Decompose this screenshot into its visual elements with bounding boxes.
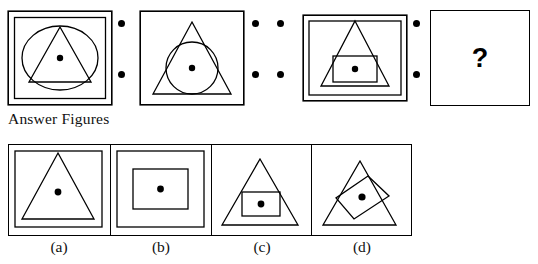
center-dot: [57, 55, 63, 61]
triangle: [153, 22, 231, 94]
problem-figure-1[interactable]: [7, 10, 113, 106]
question-mark: ?: [431, 11, 529, 105]
center-dot: [352, 66, 358, 72]
separator-dot: [118, 71, 125, 78]
answer-label-a: (a): [8, 238, 110, 256]
separator-dot: [252, 20, 259, 27]
separator-2-column-right: [277, 20, 284, 78]
center-dot: [358, 193, 365, 200]
separator-1: [118, 20, 127, 78]
problem-figure-3-graphic: [302, 14, 408, 102]
answer-option-d-graphic: [312, 145, 409, 234]
answer-figures-row: [8, 144, 412, 236]
center-dot: [157, 186, 164, 193]
triangle: [22, 153, 94, 219]
separator-1-column: [118, 20, 125, 78]
answer-option-b[interactable]: [111, 145, 213, 235]
outer-square: [140, 11, 244, 105]
separator-2: [252, 20, 284, 78]
answer-label-d: (d): [312, 238, 412, 256]
puzzle-stage: ? Answer Figures: [0, 0, 538, 264]
answer-option-c[interactable]: [212, 145, 312, 235]
problem-figure-1-graphic: [7, 10, 113, 106]
answer-label-c: (c): [212, 238, 312, 256]
answer-option-d[interactable]: [312, 145, 412, 235]
triangle: [321, 21, 389, 86]
separator-3-column: [413, 20, 420, 78]
outer-square: [303, 15, 407, 101]
center-dot: [189, 65, 195, 71]
center-dot: [55, 189, 62, 196]
problem-figure-3[interactable]: [302, 14, 408, 102]
answer-option-b-graphic: [111, 145, 210, 234]
problem-figure-4-unknown[interactable]: ?: [430, 10, 530, 106]
answer-label-b: (b): [110, 238, 212, 256]
center-dot: [258, 201, 265, 208]
problem-figure-2-graphic: [139, 10, 245, 106]
problem-figure-2[interactable]: [139, 10, 245, 106]
answer-option-c-graphic: [212, 145, 309, 234]
separator-3: [413, 20, 422, 78]
separator-dot: [413, 20, 420, 27]
answer-option-labels: (a) (b) (c) (d): [8, 238, 412, 262]
separator-dot: [252, 71, 259, 78]
answer-option-a-graphic: [9, 145, 108, 234]
triangle: [29, 27, 91, 82]
separator-dot: [277, 20, 284, 27]
separator-dot: [118, 20, 125, 27]
separator-2-column-left: [252, 20, 259, 78]
separator-dot: [413, 71, 420, 78]
separator-dot: [277, 71, 284, 78]
answer-figures-heading: Answer Figures: [8, 110, 109, 128]
answer-option-a[interactable]: [9, 145, 111, 235]
